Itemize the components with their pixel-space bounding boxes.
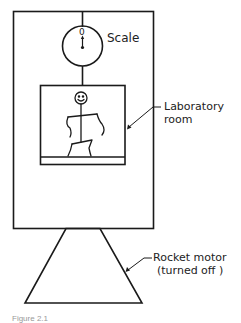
rocket-leader-arrow: [126, 258, 153, 272]
laboratory-label-line2: room: [164, 114, 192, 126]
scale-label: Scale: [107, 32, 139, 44]
scale-reading: 0: [79, 26, 85, 38]
laboratory-label-line1: Laboratory: [164, 101, 224, 113]
figure-caption: Figure 2.1: [12, 314, 48, 323]
rocket-motor: [25, 229, 142, 304]
rocket-label-line1: Rocket motor: [153, 252, 227, 264]
laboratory-leader-arrow: [127, 107, 161, 130]
stick-figure-person: [67, 92, 104, 156]
rocket-label-line2: (turned off ): [157, 265, 223, 277]
